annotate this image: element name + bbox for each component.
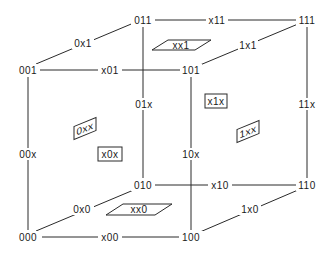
svg-text:x0x: x0x xyxy=(101,149,118,160)
edge-label-x11: x11 xyxy=(209,15,226,26)
vertex-label-101: 101 xyxy=(182,65,200,76)
face-x1x: x1x xyxy=(205,94,227,108)
vertex-label-111: 111 xyxy=(299,15,316,26)
edge-label-0x1: 0x1 xyxy=(74,38,92,49)
face-0xx: 0xx xyxy=(74,118,96,140)
vertex-label-000: 000 xyxy=(19,232,37,243)
edge-label-1x1: 1x1 xyxy=(239,40,257,51)
svg-text:xx0: xx0 xyxy=(130,204,147,215)
vertex-label-011: 011 xyxy=(134,15,151,26)
edge-label-01x: 01x xyxy=(135,99,153,110)
edge-label-0x0: 0x0 xyxy=(73,204,91,215)
edge-label-1x0: 1x0 xyxy=(241,204,259,215)
vertex-label-100: 100 xyxy=(182,232,200,243)
face-xx0: xx0 xyxy=(106,204,172,215)
vertex-label-010: 010 xyxy=(134,180,152,191)
svg-text:x1x: x1x xyxy=(207,96,224,107)
face-xx1: xx1 xyxy=(152,40,211,51)
cube-diagram: xx1 x1x 0xx 1xx x0x xx0 x11 xyxy=(0,0,327,257)
edge-label-x00: x00 xyxy=(101,232,119,243)
edge-label-x10: x10 xyxy=(211,180,229,191)
face-1xx: 1xx xyxy=(237,121,259,143)
edge-label-11x: 11x xyxy=(299,99,316,110)
svg-text:xx1: xx1 xyxy=(172,40,189,51)
edge-label-10x: 10x xyxy=(182,149,200,160)
vertex-label-110: 110 xyxy=(298,180,315,191)
edge-label-00x: 00x xyxy=(19,149,37,160)
vertex-label-001: 001 xyxy=(19,65,37,76)
edge-label-x01: x01 xyxy=(101,65,119,76)
face-x0x: x0x xyxy=(98,147,122,161)
